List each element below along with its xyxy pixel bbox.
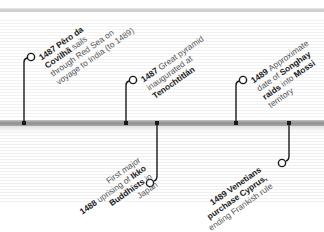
connector-event-5 (286, 123, 289, 161)
connector-event-2 (126, 81, 129, 123)
circle-node-event-2-icon (129, 76, 136, 83)
circle-node-event-3-icon (239, 76, 246, 83)
dot-event-5-icon (287, 121, 291, 125)
circle-node-event-5-icon (278, 159, 285, 166)
connector-event-1 (24, 58, 27, 123)
dot-event-1-icon (22, 121, 26, 125)
event-connectors (0, 0, 324, 232)
dot-event-2-icon (124, 121, 128, 125)
circle-node-event-1-icon (27, 53, 34, 60)
connector-event-4 (154, 123, 157, 181)
dot-event-4-icon (155, 121, 159, 125)
connector-event-3 (236, 81, 239, 123)
dot-event-3-icon (234, 121, 238, 125)
